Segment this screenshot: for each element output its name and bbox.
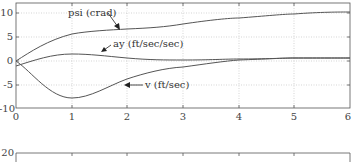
top-plot: 10 5 0 -5 -10 0 1 2 3 4 5 6 psi (crad) a… [0,3,351,122]
bottom-plot: 20 [1,147,350,162]
y-tick-10: 10 [0,7,13,18]
y-tick-minus5: -5 [3,79,13,90]
x-tick-4: 4 [236,111,242,122]
y-tick-0: 0 [7,55,13,66]
bottom-y-tick-20: 20 [1,147,14,158]
annotation-v: v (ft/sec) [144,79,189,90]
grid [16,3,350,108]
x-tick-2: 2 [124,111,130,122]
annotation-ay: ay (ft/sec/sec) [113,38,183,49]
x-tick-5: 5 [291,111,297,122]
x-tick-0: 0 [13,111,19,122]
x-tick-6: 6 [345,111,351,122]
arrowhead-ay-icon [101,47,107,52]
arrowhead-v-icon [124,82,130,88]
x-tick-1: 1 [69,111,75,122]
arrowhead-psi-icon [114,23,120,30]
x-tick-3: 3 [180,111,186,122]
y-tick-5: 5 [7,31,13,42]
chart-figure: 10 5 0 -5 -10 0 1 2 3 4 5 6 psi (crad) a… [0,0,354,162]
annotation-psi: psi (crad) [68,7,117,18]
